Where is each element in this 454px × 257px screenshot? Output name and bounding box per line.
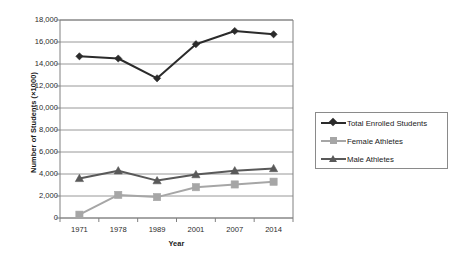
series-line: [79, 182, 273, 215]
legend-item-total-enrolled-students[interactable]: Total Enrolled Students: [321, 116, 427, 130]
x-axis-title: Year: [60, 239, 293, 248]
square-marker-icon: [321, 135, 346, 147]
legend-label: Male Athletes: [347, 155, 394, 164]
data-point-square: [153, 194, 160, 201]
data-point-diamond: [76, 53, 83, 60]
data-point-square: [192, 184, 199, 191]
data-point-square: [115, 191, 122, 198]
data-point-square: [231, 181, 238, 188]
data-series-layer: [75, 27, 277, 218]
triangle-marker-icon: [321, 153, 346, 165]
legend-item-female-athletes[interactable]: Female Athletes: [321, 134, 403, 148]
data-point-square: [270, 178, 277, 185]
series-line: [79, 169, 273, 181]
series-line: [79, 31, 273, 78]
data-point-diamond: [231, 27, 238, 34]
gridlines: [60, 20, 293, 218]
x-axis-tick-label: 2014: [251, 225, 297, 234]
diamond-marker-icon: [321, 117, 346, 129]
plot-border: [60, 20, 293, 218]
x-axis-tick-marks: [60, 218, 293, 222]
data-point-square: [76, 211, 83, 218]
legend: Total Enrolled Students Female Athletes …: [315, 112, 448, 169]
legend-label: Total Enrolled Students: [347, 119, 427, 128]
series-total-enrolled-students: [76, 27, 277, 82]
series-female-athletes: [76, 178, 277, 218]
data-point-diamond: [270, 31, 277, 38]
chart-figure: Number of Students (×1000) 18,00016,0001…: [0, 0, 454, 257]
legend-label: Female Athletes: [347, 137, 403, 146]
legend-item-male-athletes[interactable]: Male Athletes: [321, 152, 394, 166]
y-axis-tick-marks: [56, 20, 60, 218]
data-point-diamond: [115, 55, 122, 62]
